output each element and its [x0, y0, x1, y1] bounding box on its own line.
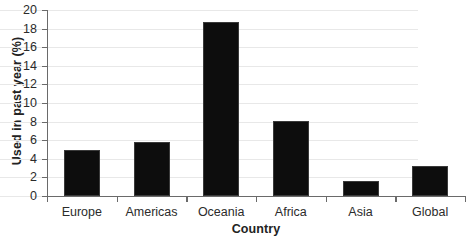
x-tick-mark — [117, 197, 118, 202]
y-tick-label: 8 — [0, 116, 37, 129]
y-tick-label: 10 — [0, 97, 37, 110]
x-tick-label: Americas — [117, 205, 187, 219]
y-tick-label: 20 — [0, 4, 37, 17]
y-tick-label: 14 — [0, 60, 37, 73]
x-tick-label: Asia — [326, 205, 396, 219]
x-tick-mark — [186, 197, 187, 202]
x-tick-label: Africa — [256, 205, 326, 219]
y-tick-label: 2 — [0, 171, 37, 184]
x-tick-mark — [256, 197, 257, 202]
y-tick-label: 12 — [0, 78, 37, 91]
y-tick-label: 0 — [0, 190, 37, 203]
y-tick-label: 16 — [0, 41, 37, 54]
x-tick-mark — [326, 197, 327, 202]
x-tick-mark — [465, 197, 466, 202]
bar — [273, 121, 309, 196]
y-tick-label: 18 — [0, 23, 37, 36]
bar — [412, 166, 448, 196]
bar — [64, 150, 100, 196]
plot-area — [47, 10, 465, 196]
y-tick-label: 4 — [0, 153, 37, 166]
x-tick-mark — [47, 197, 48, 202]
x-tick-label: Europe — [47, 205, 117, 219]
bar — [343, 181, 379, 196]
x-tick-label: Oceania — [186, 205, 256, 219]
x-tick-mark — [395, 197, 396, 202]
bar — [203, 22, 239, 196]
x-tick-label: Global — [395, 205, 465, 219]
y-tick-label: 6 — [0, 134, 37, 147]
bar — [134, 142, 170, 196]
x-axis-title: Country — [47, 222, 465, 236]
bar-chart: Used in past year (%) 02468101214161820 … — [0, 0, 471, 245]
